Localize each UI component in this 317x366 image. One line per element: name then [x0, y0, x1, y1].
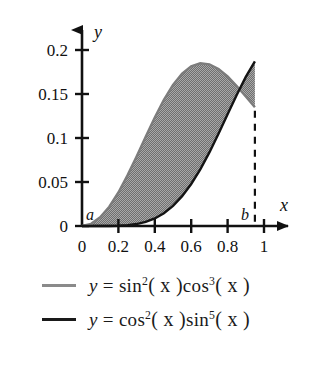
- shaded-region: [82, 61, 255, 226]
- y-tick-label: 0.1: [47, 129, 68, 148]
- figure-container: 00.050.10.150.2 00.20.40.60.81 ab y x y …: [0, 0, 317, 366]
- legend-label-upper: y = sin2( x )cos3( x ): [89, 274, 250, 297]
- legend-item-upper: y = sin2( x )cos3( x ): [0, 268, 317, 302]
- x-tick-labels: 00.20.40.60.81: [78, 237, 269, 256]
- y-tick-label: 0.05: [38, 173, 68, 192]
- x-tick-label: 0.6: [181, 237, 202, 256]
- x-axis-label: x: [279, 195, 288, 215]
- x-tick-label: 0.2: [108, 237, 129, 256]
- x-tick-label: 0.4: [144, 237, 166, 256]
- x-tick-label: 0: [78, 237, 87, 256]
- point-label-a: a: [86, 206, 94, 223]
- y-tick-label: 0.2: [47, 41, 68, 60]
- x-tick-label: 0.8: [217, 237, 238, 256]
- legend-swatch-upper-icon: [42, 284, 76, 287]
- legend: y = sin2( x )cos3( x ) y = cos2( x )sin5…: [0, 268, 317, 336]
- y-tick-label: 0.15: [38, 85, 68, 104]
- legend-item-lower: y = cos2( x )sin5( x ): [0, 302, 317, 336]
- point-label-b: b: [241, 206, 249, 223]
- y-axis-label: y: [92, 22, 102, 42]
- legend-label-lower: y = cos2( x )sin5( x ): [89, 308, 250, 331]
- y-tick-label: 0: [60, 217, 69, 236]
- y-tick-labels: 00.050.10.150.2: [38, 41, 68, 236]
- x-tick-label: 1: [260, 237, 269, 256]
- legend-swatch-lower-icon: [42, 318, 76, 321]
